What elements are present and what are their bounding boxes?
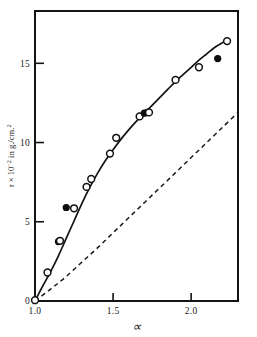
- y-tick-label: 10: [20, 138, 30, 148]
- y-tick-label: 5: [25, 217, 30, 227]
- x-tick-label: 1.0: [29, 306, 42, 316]
- y-axis-ticks: [35, 63, 44, 221]
- data-point-open: [71, 205, 78, 212]
- data-point-open: [224, 38, 231, 45]
- stress-strain-plot: 051015 1.01.52.0 τ × 10−2 in g./cm.2 ∝: [0, 0, 257, 337]
- data-point-open: [113, 134, 120, 141]
- data-point-open: [88, 176, 95, 183]
- data-point-open: [57, 237, 64, 244]
- data-point-open: [146, 109, 153, 116]
- data-point-open: [107, 150, 114, 157]
- data-point-open: [83, 184, 90, 191]
- data-point-filled: [215, 56, 221, 62]
- axis-box: [35, 11, 238, 301]
- experimental-curve: [35, 40, 227, 301]
- data-point-open: [196, 64, 203, 71]
- plot-frame: [35, 11, 238, 301]
- x-axis-ticks: [113, 293, 191, 301]
- data-point-open: [44, 269, 51, 276]
- y-axis-label-text: τ × 10−2 in g./cm.2: [5, 125, 16, 188]
- y-tick-label: 0: [25, 296, 30, 306]
- x-tick-label: 1.5: [107, 306, 120, 316]
- y-axis-label: τ × 10−2 in g./cm.2: [5, 125, 16, 188]
- x-tick-label: 2.0: [185, 306, 198, 316]
- x-tick-labels: 1.01.52.0: [29, 306, 198, 316]
- data-point-open: [32, 297, 39, 304]
- chart-figure: 051015 1.01.52.0 τ × 10−2 in g./cm.2 ∝: [0, 0, 257, 337]
- data-point-filled: [63, 205, 69, 211]
- x-axis-label-text: ∝: [132, 319, 142, 334]
- y-tick-labels: 051015: [20, 59, 30, 307]
- data-points-group: [32, 38, 231, 304]
- y-tick-label: 15: [20, 59, 30, 69]
- data-point-open: [172, 77, 179, 84]
